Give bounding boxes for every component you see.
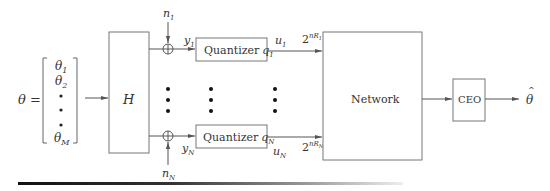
svg-text:Network: Network: [351, 93, 400, 106]
ceo-system-diagram: θ = θ1 θ2 θM H n1 y1 Quantizerq1 u1 2nR1: [0, 0, 550, 191]
u-1-label: u1: [275, 34, 287, 49]
svg-text:CEO: CEO: [458, 94, 481, 105]
noise-1-label: n1: [163, 7, 175, 22]
theta-hat-output: θ ^: [526, 85, 535, 107]
svg-text:θ =: θ =: [18, 92, 41, 107]
quantizer-1-block: Quantizerq1: [196, 38, 274, 61]
rate-n-label: 2nRN: [302, 140, 324, 154]
svg-text:θM: θM: [54, 131, 70, 147]
svg-text:θ: θ: [526, 93, 534, 107]
svg-text:QuantizerqN: QuantizerqN: [203, 131, 275, 146]
theta-vector-entries: θ1 θ2 θM: [54, 59, 70, 147]
svg-text:Quantizerq1: Quantizerq1: [204, 44, 274, 59]
network-block: Network: [323, 32, 422, 160]
u-n-label: uN: [273, 145, 287, 160]
ceo-block: CEO: [453, 79, 485, 121]
svg-text:H: H: [122, 92, 135, 107]
y-1-label: y1: [183, 34, 195, 49]
rate-1-label: 2nR1: [302, 32, 322, 46]
h-block: H: [109, 32, 149, 153]
bottom-rule: [18, 182, 403, 185]
noise-n-label: nN: [162, 167, 176, 182]
svg-text:^: ^: [528, 85, 535, 94]
adder-n: [163, 131, 173, 141]
ellipsis-dots: [166, 87, 277, 113]
quantizer-n-block: QuantizerqN: [196, 125, 275, 148]
y-n-label: yN: [181, 142, 195, 157]
svg-text:θ1: θ1: [55, 59, 67, 75]
theta-vector-label: θ =: [18, 92, 41, 107]
adder-1: [163, 44, 173, 54]
svg-text:θ2: θ2: [55, 74, 67, 90]
